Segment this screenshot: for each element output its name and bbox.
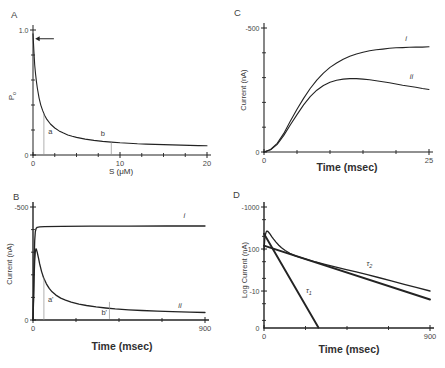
four-panel-figure: 010201.00abAS (μM)Po 025-5000iiiCTime (m…	[0, 0, 445, 368]
panel-b-current-time-chart: 0900-5000a'b'iiiBTime (msec)Current (nA)	[0, 184, 222, 368]
svg-text:S (μM): S (μM)	[109, 167, 133, 176]
svg-text:b': b'	[101, 308, 107, 317]
svg-text:0: 0	[31, 324, 35, 333]
svg-text:D: D	[233, 189, 240, 200]
svg-text:0: 0	[25, 152, 29, 159]
svg-text:i: i	[184, 211, 186, 220]
svg-text:-500: -500	[14, 204, 28, 211]
svg-text:Time (msec): Time (msec)	[316, 161, 377, 173]
svg-text:Time (msec): Time (msec)	[91, 340, 152, 352]
svg-text:-10: -10	[249, 288, 259, 295]
svg-text:Current (nA): Current (nA)	[239, 69, 248, 111]
svg-text:ii: ii	[410, 72, 414, 81]
svg-text:Time (msec): Time (msec)	[318, 343, 379, 355]
svg-text:B: B	[13, 191, 19, 202]
svg-text:-500: -500	[245, 25, 259, 32]
svg-text:Po: Po	[7, 92, 17, 101]
svg-text:0: 0	[256, 325, 260, 332]
svg-text:τ1: τ1	[306, 286, 312, 296]
svg-text:-1000: -1000	[242, 204, 260, 211]
svg-text:a': a'	[48, 295, 54, 304]
svg-text:1.0: 1.0	[19, 27, 29, 34]
svg-text:τ2: τ2	[367, 259, 373, 269]
panel-d-log-current-chart: 0900-1000-100-100τ1τ2DTime (msec)Log Cur…	[222, 184, 445, 368]
svg-text:0: 0	[25, 317, 29, 324]
svg-text:a: a	[48, 127, 53, 136]
svg-text:900: 900	[199, 324, 212, 333]
svg-text:20: 20	[203, 159, 211, 168]
svg-text:900: 900	[424, 332, 437, 341]
svg-text:0: 0	[262, 332, 266, 341]
panel-c-current-onset-chart: 025-5000iiiCTime (msec)Current (nA)	[222, 0, 445, 184]
svg-text:ii: ii	[178, 301, 182, 310]
svg-text:Log Current (nA): Log Current (nA)	[240, 242, 249, 298]
svg-text:25: 25	[425, 156, 433, 165]
panel-a-dose-response-chart: 010201.00abAS (μM)Po	[0, 0, 222, 184]
svg-text:b: b	[101, 129, 105, 138]
svg-text:0: 0	[262, 156, 266, 165]
svg-text:i: i	[405, 34, 407, 43]
svg-text:A: A	[11, 9, 18, 20]
svg-text:0: 0	[256, 149, 260, 156]
svg-text:0: 0	[31, 159, 35, 168]
svg-text:Current (nA): Current (nA)	[5, 243, 14, 285]
svg-text:C: C	[234, 7, 241, 18]
